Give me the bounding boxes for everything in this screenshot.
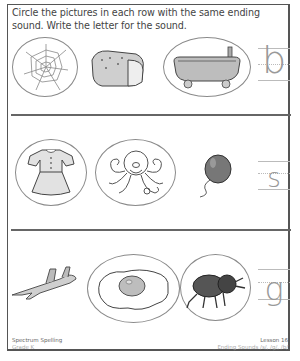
- bread-icon: [88, 46, 146, 90]
- spider-web-icon: [22, 42, 70, 92]
- row-divider: [11, 229, 291, 231]
- answer-letter-row-2: s: [258, 165, 290, 191]
- balloon-icon: [192, 153, 236, 199]
- letter-guide-row-3[interactable]: g: [258, 269, 290, 299]
- footer-grade: Grade K: [12, 344, 62, 351]
- row-divider: [11, 114, 291, 116]
- footer-left: Spectrum Spelling Grade K: [12, 337, 62, 350]
- letter-guide-row-2[interactable]: s: [258, 161, 290, 189]
- instructions-text: Circle the pictures in each row with the…: [12, 7, 288, 32]
- letter-guide-row-1[interactable]: b: [258, 48, 290, 80]
- footer-book-title: Spectrum Spelling: [12, 337, 62, 344]
- footer-right: Lesson 16 Ending Sounds /s/, /g/, /b/: [217, 337, 288, 350]
- jet-icon: [10, 265, 80, 301]
- bathtub-icon: [172, 45, 242, 90]
- answer-letter-row-3: g: [258, 273, 290, 305]
- fried-egg-icon: [94, 266, 172, 312]
- bug-icon: [185, 268, 247, 312]
- octopus-icon: [103, 145, 169, 200]
- dress-icon: [24, 146, 78, 198]
- footer-lesson-topic: Ending Sounds /s/, /g/, /b/: [217, 344, 288, 351]
- answer-letter-row-1: b: [258, 40, 290, 80]
